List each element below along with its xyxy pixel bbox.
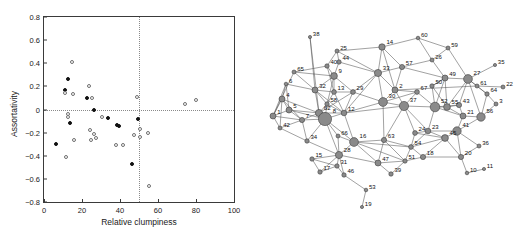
x-axis-label: Relative clumpiness — [43, 217, 235, 227]
network-node-42[interactable] — [278, 126, 282, 130]
network-node-53[interactable] — [364, 188, 368, 192]
network-node-49[interactable] — [442, 75, 448, 81]
network-node-60[interactable] — [416, 36, 420, 40]
network-node-32[interactable] — [312, 87, 318, 93]
network-node-29[interactable] — [351, 90, 356, 95]
scatter-point-open — [121, 143, 125, 147]
network-node-label-61: 61 — [480, 80, 487, 86]
network-node-10[interactable] — [465, 171, 469, 175]
network-node-label-55: 55 — [452, 99, 459, 105]
network-node-label-5: 5 — [293, 103, 296, 109]
network-node-59[interactable] — [446, 46, 450, 50]
scatter-point-open — [64, 155, 68, 159]
network-node-67[interactable] — [415, 90, 420, 95]
network-node-24[interactable] — [413, 131, 418, 136]
network-node-label-1: 1 — [277, 109, 280, 115]
scatter-point-open — [132, 133, 136, 137]
network-node-33[interactable] — [374, 69, 381, 76]
network-node-25[interactable] — [335, 49, 339, 53]
scatter-point-filled — [66, 77, 70, 81]
scatter-point-filled — [92, 108, 96, 112]
scatter-point-open — [87, 84, 91, 88]
network-node-27[interactable] — [464, 75, 473, 84]
network-node-label-52: 52 — [441, 98, 448, 104]
network-node-22[interactable] — [501, 85, 505, 89]
y-tick-label: −0.6 — [25, 174, 40, 183]
network-node-15[interactable] — [310, 157, 314, 161]
network-node-51[interactable] — [403, 159, 407, 163]
network-node-5[interactable] — [286, 107, 292, 113]
network-node-label-36: 36 — [482, 140, 489, 146]
y-tick-mark — [44, 155, 47, 156]
network-node-34[interactable] — [305, 139, 309, 143]
network-node-13[interactable] — [332, 90, 337, 95]
network-node-label-9: 9 — [339, 68, 342, 74]
network-node-3[interactable] — [494, 102, 498, 106]
network-node-45[interactable] — [442, 135, 449, 142]
network-node-2[interactable] — [392, 87, 398, 93]
network-node-36[interactable] — [477, 144, 481, 148]
network-node-17[interactable] — [318, 170, 322, 174]
network-node-label-57: 57 — [406, 60, 413, 66]
network-node-4[interactable] — [279, 96, 285, 102]
network-node-61[interactable] — [475, 84, 479, 88]
network-node-56[interactable] — [477, 113, 485, 121]
network-node-19[interactable] — [360, 205, 363, 208]
network-node-label-17: 17 — [323, 165, 330, 171]
x-tick-mark — [82, 199, 83, 202]
network-node-21[interactable] — [460, 113, 466, 119]
network-node-18[interactable] — [420, 154, 425, 159]
network-node-11[interactable] — [482, 167, 485, 170]
y-tick-mark — [44, 17, 47, 18]
scatter-point-open — [194, 98, 198, 102]
network-node-20[interactable] — [458, 154, 463, 159]
network-node-23[interactable] — [425, 128, 431, 134]
scatter-point-open — [147, 184, 151, 188]
network-node-39[interactable] — [389, 172, 393, 176]
network-node-12[interactable] — [341, 110, 347, 116]
network-node-label-53: 53 — [369, 184, 376, 190]
network-node-47[interactable] — [375, 160, 381, 166]
network-node-65[interactable] — [292, 70, 296, 74]
network-node-63[interactable] — [381, 137, 386, 142]
y-tick-mark — [44, 109, 47, 110]
network-node-40[interactable] — [325, 64, 329, 68]
network-node-26[interactable] — [430, 58, 434, 62]
network-node-label-16: 16 — [360, 133, 367, 139]
network-node-57[interactable] — [399, 64, 404, 69]
network-node-37[interactable] — [399, 101, 408, 110]
network-node-52[interactable] — [430, 102, 440, 112]
network-node-28[interactable] — [335, 151, 342, 158]
network-node-66[interactable] — [336, 134, 340, 138]
network-node-8[interactable] — [318, 112, 331, 125]
network-node-1[interactable] — [270, 113, 276, 119]
x-tick-label: 20 — [78, 206, 86, 215]
x-tick-mark — [196, 199, 197, 202]
x-tick-label: 0 — [42, 206, 46, 215]
network-node-6[interactable] — [284, 82, 288, 86]
scatter-point-open — [114, 143, 118, 147]
network-node-30[interactable] — [379, 98, 388, 107]
network-node-label-11: 11 — [487, 163, 493, 169]
network-node-64[interactable] — [485, 92, 489, 96]
network-node-14[interactable] — [379, 44, 385, 50]
network-node-16[interactable] — [350, 138, 359, 147]
network-node-label-45: 45 — [450, 130, 457, 136]
x-tick-label: 40 — [116, 206, 124, 215]
network-node-label-18: 18 — [427, 150, 434, 156]
network-node-31[interactable] — [335, 164, 339, 168]
network-node-38[interactable] — [308, 35, 311, 38]
network-node-label-64: 64 — [490, 87, 497, 93]
network-edge — [280, 128, 307, 141]
network-node-9[interactable] — [331, 73, 338, 80]
network-node-7[interactable] — [299, 117, 304, 122]
network-node-label-65: 65 — [297, 66, 304, 72]
network-node-55[interactable] — [444, 104, 451, 111]
network-node-54[interactable] — [409, 145, 414, 150]
network-node-35[interactable] — [493, 63, 496, 66]
network-node-46[interactable] — [342, 173, 346, 177]
network-node-44[interactable] — [337, 60, 341, 64]
x-tick-label: 100 — [228, 206, 241, 215]
network-node-label-38: 38 — [313, 31, 320, 37]
network-node-50[interactable] — [430, 84, 434, 88]
